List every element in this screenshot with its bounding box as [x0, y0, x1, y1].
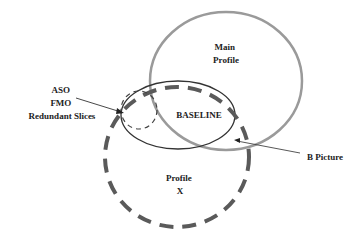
profile-x-label: Profile X — [166, 173, 194, 196]
b-picture-label: B Picture — [307, 152, 343, 162]
profile-venn-diagram: Main Profile BASELINE Profile X ASO FMO … — [0, 0, 364, 240]
aso-pointer-arrowhead — [116, 108, 124, 114]
b-picture-pointer-arrowhead — [234, 138, 240, 143]
profile-x-dashed-circle — [105, 87, 249, 227]
aso-fmo-label: ASO FMO Redundant Slices — [29, 85, 96, 121]
baseline-label: BASELINE — [176, 110, 222, 120]
aso-pointer-line — [76, 98, 121, 112]
main-profile-label: Main Profile — [213, 42, 239, 65]
